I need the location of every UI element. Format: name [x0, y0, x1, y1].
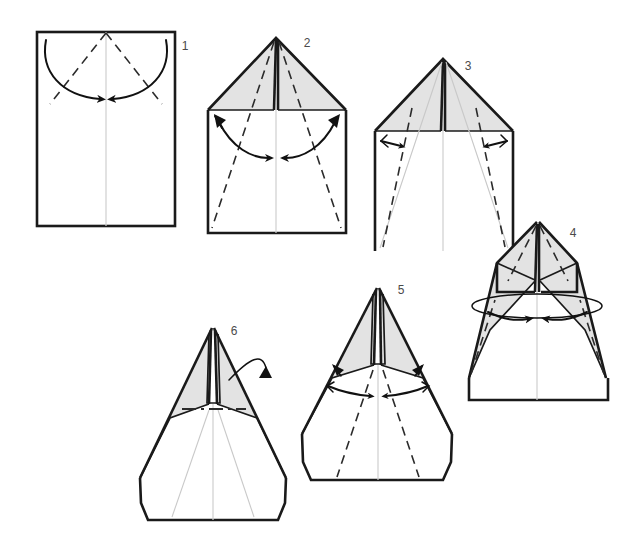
step-3-number: 3 — [465, 59, 472, 73]
step6-flip-arrow-head — [259, 366, 272, 378]
step-2-number: 2 — [304, 36, 311, 50]
folding-diagram-canvas: 1 2 — [0, 0, 639, 557]
step5-body-fill — [309, 290, 445, 455]
step3-body-fill — [375, 131, 513, 251]
step-5-figure: 5 — [302, 283, 452, 480]
step-1-figure: 1 — [37, 32, 189, 226]
step-6-number: 6 — [231, 324, 238, 338]
step-2-figure: 2 — [208, 36, 346, 233]
step-3-figure: 3 — [375, 59, 513, 251]
step-1-number: 1 — [182, 39, 189, 53]
origami-instruction-sheet: 1 2 — [0, 0, 639, 557]
step5-right-spine — [380, 290, 381, 365]
step2-body-fill — [208, 110, 346, 233]
step-5-number: 5 — [398, 283, 405, 297]
step-6-figure: 6 — [140, 324, 286, 520]
step-4-number: 4 — [570, 226, 577, 240]
